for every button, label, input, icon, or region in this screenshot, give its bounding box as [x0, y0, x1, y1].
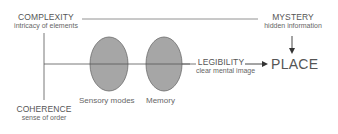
legibility-title: LEGIBILITY: [196, 57, 246, 67]
complexity-title: COMPLEXITY: [8, 12, 84, 22]
complexity-subtitle: intricacy of elements: [8, 22, 84, 29]
mystery-title: MYSTERY: [258, 12, 328, 22]
mystery-node: MYSTERY hidden information: [258, 12, 328, 29]
complexity-node: COMPLEXITY intricacy of elements: [8, 12, 84, 29]
sensory-modes-label: Sensory modes: [79, 96, 135, 105]
place-node: PLACE: [271, 56, 318, 72]
memory-label: Memory: [146, 96, 175, 105]
arrowhead-right-icon: [262, 61, 268, 67]
coherence-title: COHERENCE: [14, 104, 74, 114]
coherence-node: COHERENCE sense of order: [14, 104, 74, 121]
legibility-subtitle: clear mental image: [196, 67, 246, 74]
legibility-node: LEGIBILITY clear mental image: [196, 57, 246, 74]
coherence-subtitle: sense of order: [14, 114, 74, 121]
arrowhead-down-icon: [289, 48, 295, 54]
mystery-subtitle: hidden information: [258, 22, 328, 29]
